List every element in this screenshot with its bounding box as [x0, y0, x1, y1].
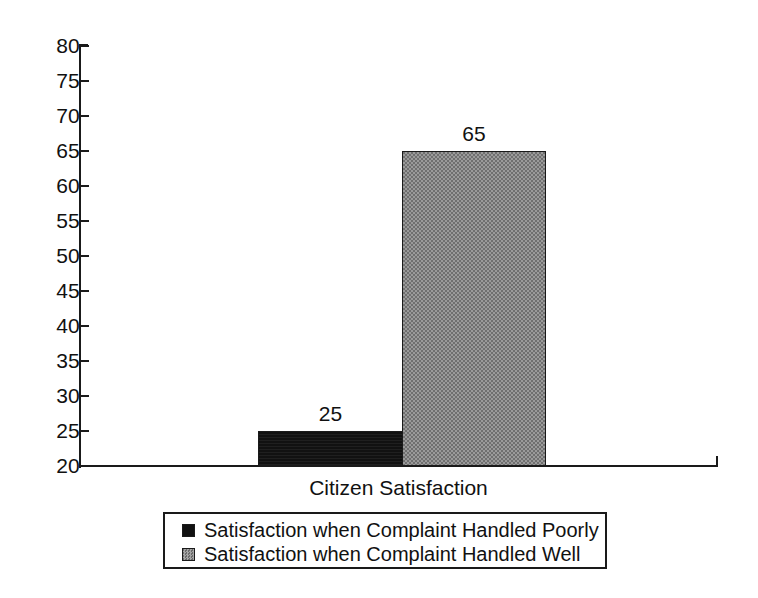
y-axis-tick-label: 45	[34, 280, 80, 301]
legend-item-poorly: Satisfaction when Complaint Handled Poor…	[182, 518, 605, 542]
legend-item-well: Satisfaction when Complaint Handled Well	[182, 542, 605, 566]
y-axis-tick-label: 65	[34, 140, 80, 161]
legend-swatch-gray-icon	[182, 548, 195, 561]
bar-chart: 80757065605550454035302520 25 65 Citizen…	[0, 0, 758, 598]
legend-swatch-dark-icon	[182, 524, 195, 537]
y-axis-tick-label: 50	[34, 245, 80, 266]
y-axis-tick-label-row: 70	[0, 105, 80, 126]
y-axis-tick-label: 60	[34, 175, 80, 196]
y-axis-tick-label: 40	[34, 315, 80, 336]
y-axis-tick-label-row: 25	[0, 420, 80, 441]
bar-value-label-well: 65	[402, 123, 546, 144]
y-axis-tick-label: 70	[34, 105, 80, 126]
legend-label-poorly: Satisfaction when Complaint Handled Poor…	[204, 519, 599, 541]
y-axis-tick-label-row: 20	[0, 455, 80, 476]
bar-value-label-poorly: 25	[258, 403, 403, 424]
y-axis-tick-label-row: 60	[0, 175, 80, 196]
y-axis-tick-label-row: 80	[0, 35, 80, 56]
y-axis-tick-label: 80	[34, 35, 80, 56]
y-axis-tick-label-row: 40	[0, 315, 80, 336]
y-axis-tick-label-row: 65	[0, 140, 80, 161]
y-axis-tick-label: 30	[34, 385, 80, 406]
bar-satisfaction-handled-well	[402, 151, 546, 466]
chart-legend: Satisfaction when Complaint Handled Poor…	[163, 512, 607, 569]
y-axis-tick-label-row: 35	[0, 350, 80, 371]
y-axis-tick-label: 35	[34, 350, 80, 371]
y-axis-tick-label: 20	[34, 455, 80, 476]
y-axis-tick-label: 75	[34, 70, 80, 91]
y-axis-tick-label-row: 45	[0, 280, 80, 301]
y-axis-tick-label-row: 50	[0, 245, 80, 266]
bar-satisfaction-handled-poorly	[258, 431, 403, 466]
y-axis-tick-label-row: 30	[0, 385, 80, 406]
y-axis-tick-label: 55	[34, 210, 80, 231]
y-axis-tick-label: 25	[34, 420, 80, 441]
legend-label-well: Satisfaction when Complaint Handled Well	[204, 543, 581, 565]
y-axis-tick-label-row: 55	[0, 210, 80, 231]
x-axis-title: Citizen Satisfaction	[80, 476, 717, 500]
y-axis-tick-label-row: 75	[0, 70, 80, 91]
